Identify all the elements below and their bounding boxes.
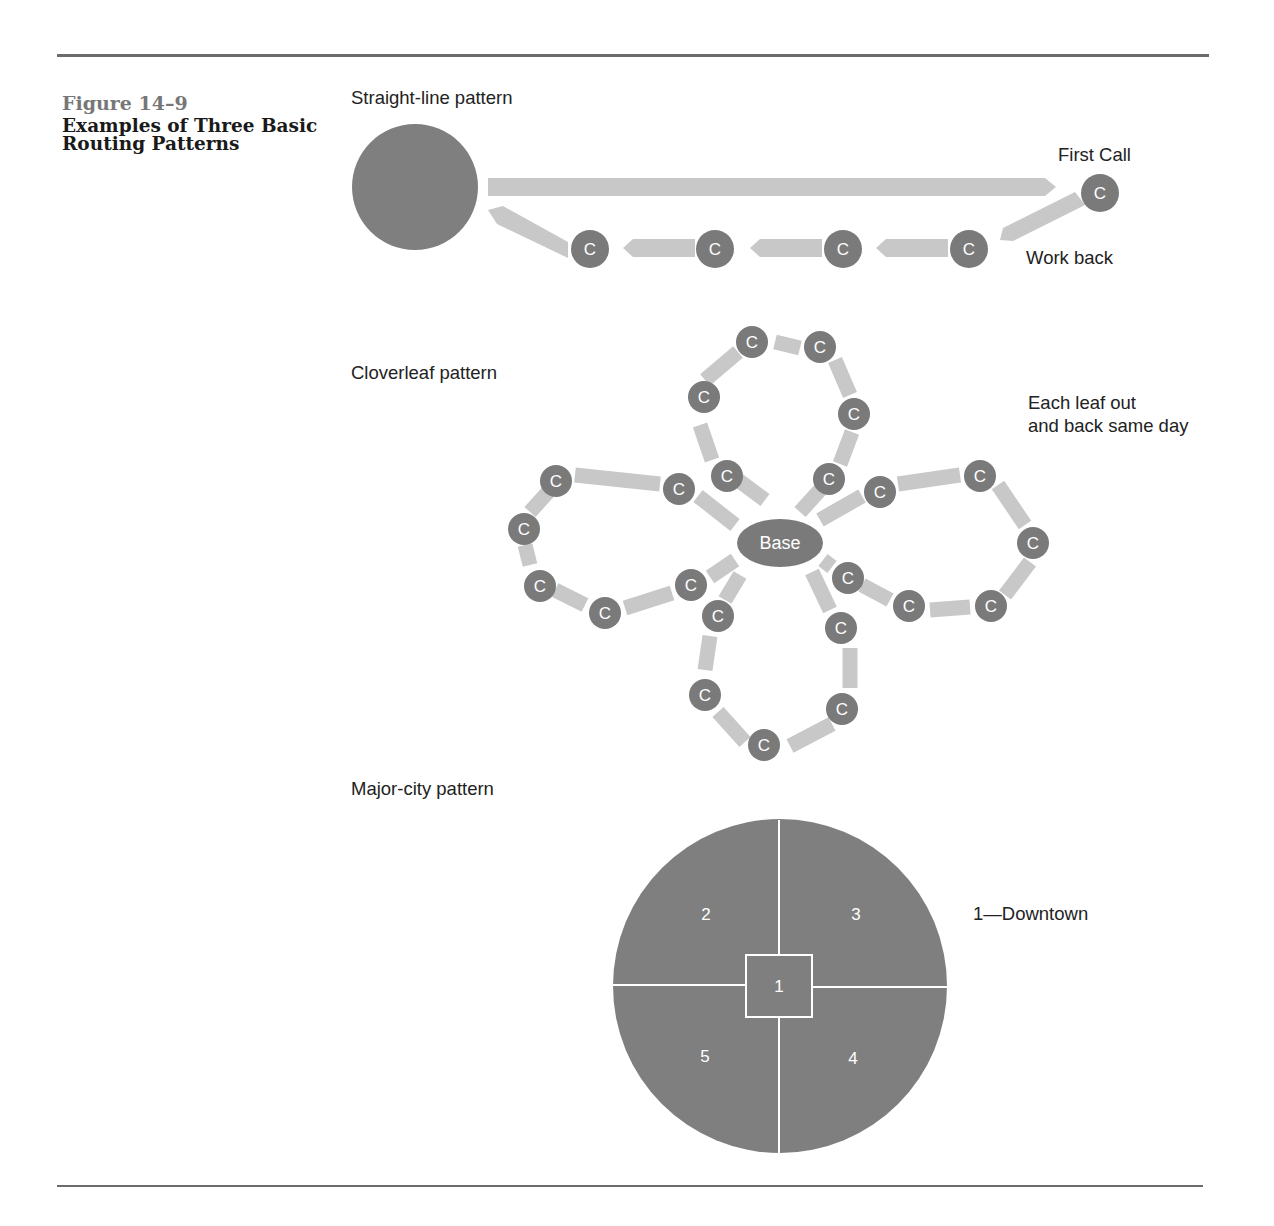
svg-text:C: C [836, 700, 848, 719]
back-arrow [750, 239, 822, 257]
svg-text:C: C [963, 240, 975, 259]
svg-text:C: C [874, 483, 886, 502]
call-node: C [508, 513, 540, 545]
call-node: C [832, 562, 864, 594]
svg-text:C: C [685, 576, 697, 595]
call-node: C [688, 381, 720, 413]
major-city-pattern: 1 2 3 4 5 [613, 819, 947, 1153]
svg-text:C: C [746, 333, 758, 352]
svg-text:C: C [1094, 184, 1106, 203]
svg-text:C: C [1027, 534, 1039, 553]
svg-text:C: C [842, 569, 854, 588]
svg-text:C: C [518, 520, 530, 539]
call-node: C [804, 331, 836, 363]
zone-4-label: 4 [848, 1049, 857, 1068]
svg-text:C: C [673, 480, 685, 499]
call-node: C [702, 600, 734, 632]
call-node: C [824, 230, 862, 268]
call-node: C [736, 326, 768, 358]
outbound-arrow [488, 178, 1056, 196]
call-node: C [893, 590, 925, 622]
svg-text:C: C [599, 604, 611, 623]
svg-text:C: C [712, 607, 724, 626]
call-node: C [838, 398, 870, 430]
bottom-rule [57, 1185, 1203, 1187]
call-node: C [540, 465, 572, 497]
svg-text:C: C [835, 619, 847, 638]
svg-text:C: C [534, 577, 546, 596]
zone-3-label: 3 [851, 905, 860, 924]
call-node: C [663, 473, 695, 505]
call-node: C [696, 230, 734, 268]
call-node: C [826, 693, 858, 725]
svg-text:C: C [550, 472, 562, 491]
routing-diagram: C C C C C [0, 0, 1274, 1226]
back-arrow [876, 239, 948, 257]
cloverleaf-pattern: Base C C C C C C C C C C C C C C C C C C… [508, 326, 1049, 761]
call-node: C [675, 569, 707, 601]
call-node: C [950, 230, 988, 268]
call-node: C [864, 476, 896, 508]
straight-line-pattern: C C C C C [352, 124, 1119, 268]
call-node: C [748, 729, 780, 761]
call-node: C [689, 679, 721, 711]
back-arrow [488, 206, 568, 258]
zone-2-label: 2 [701, 905, 710, 924]
call-node: C [975, 590, 1007, 622]
return-arrow [1000, 192, 1085, 241]
call-node: C [1017, 527, 1049, 559]
svg-text:C: C [699, 686, 711, 705]
zone-5-label: 5 [700, 1047, 709, 1066]
svg-text:C: C [709, 240, 721, 259]
zone-1-label: 1 [774, 977, 783, 996]
svg-text:C: C [974, 467, 986, 486]
svg-text:C: C [814, 338, 826, 357]
svg-text:C: C [903, 597, 915, 616]
call-node: C [571, 230, 609, 268]
call-node: C [589, 597, 621, 629]
svg-text:C: C [985, 597, 997, 616]
svg-text:C: C [584, 240, 596, 259]
call-node: C [964, 460, 996, 492]
back-arrow [623, 239, 695, 257]
call-node: C [813, 463, 845, 495]
call-node-first: C [1081, 174, 1119, 212]
svg-text:C: C [698, 388, 710, 407]
call-node: C [524, 570, 556, 602]
base-label: Base [759, 533, 800, 553]
call-node: C [825, 612, 857, 644]
svg-text:C: C [848, 405, 860, 424]
call-node: C [711, 460, 743, 492]
svg-text:C: C [721, 467, 733, 486]
home-base-circle [352, 124, 478, 250]
svg-text:C: C [823, 470, 835, 489]
svg-text:C: C [837, 240, 849, 259]
svg-text:C: C [758, 736, 770, 755]
